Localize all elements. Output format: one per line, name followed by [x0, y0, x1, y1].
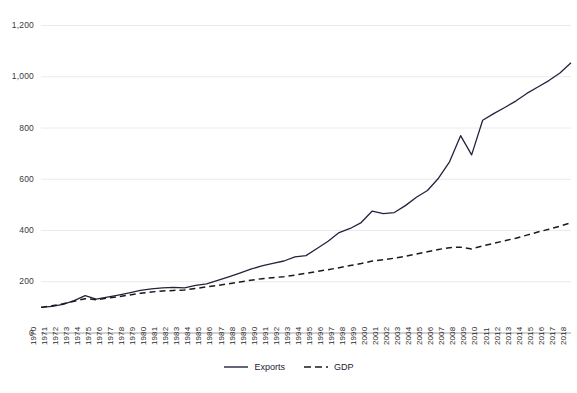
x-axis-tick-label: 2000 [360, 327, 369, 345]
x-axis-tick-label: 1973 [62, 327, 71, 345]
x-axis-tick-label: 1970 [29, 327, 38, 345]
legend-label-gdp: GDP [334, 362, 354, 372]
y-axis-tick-label: 400 [0, 225, 34, 235]
y-axis-tick-label: 200 [0, 276, 34, 286]
x-axis-tick-label: 1975 [84, 327, 93, 345]
x-axis-tick-label: 2012 [493, 327, 502, 345]
x-axis-tick-label: 1982 [161, 327, 170, 345]
x-axis-tick-label: 1976 [95, 327, 104, 345]
x-axis-tick-label: 2016 [537, 327, 546, 345]
x-axis-tick-label: 2013 [504, 327, 513, 345]
legend-swatch-dashed-icon [303, 363, 329, 371]
x-axis-tick-label: 2018 [559, 327, 568, 345]
x-axis-tick-label: 1987 [217, 327, 226, 345]
y-axis-tick-label: 1,200 [0, 20, 34, 30]
x-axis-tick-label: 2001 [371, 327, 380, 345]
x-axis-tick-label: 2017 [548, 327, 557, 345]
x-axis-tick-label: 1980 [139, 327, 148, 345]
x-axis-tick-label: 1981 [150, 327, 159, 345]
series-line-exports [41, 63, 571, 308]
y-axis-tick-label: 800 [0, 123, 34, 133]
x-axis-tick-label: 2014 [515, 327, 524, 345]
x-axis-tick-label: 1974 [73, 327, 82, 345]
x-axis-tick-label: 1990 [250, 327, 259, 345]
x-axis-tick-label: 1997 [327, 327, 336, 345]
x-axis-tick-label: 2006 [426, 327, 435, 345]
y-axis-tick-label: 1,000 [0, 71, 34, 81]
x-axis-tick-label: 1985 [194, 327, 203, 345]
x-axis-tick-label: 2009 [459, 327, 468, 345]
y-axis-tick-label: 600 [0, 174, 34, 184]
x-axis-tick-label: 2002 [382, 327, 391, 345]
x-axis-tick-label: 1983 [172, 327, 181, 345]
line-chart-figure: 02004006008001,0001,200 1970197119721973… [0, 0, 577, 393]
x-axis-tick-label: 2008 [448, 327, 457, 345]
x-axis-tick-label: 1994 [294, 327, 303, 345]
x-axis-tick-label: 1993 [283, 327, 292, 345]
x-axis-tick-label: 1977 [106, 327, 115, 345]
x-axis-tick-label: 1999 [349, 327, 358, 345]
x-axis-tick-label: 2004 [404, 327, 413, 345]
x-axis-tick-label: 1986 [205, 327, 214, 345]
x-axis-tick-label: 2011 [482, 327, 491, 345]
legend-label-exports: Exports [254, 362, 285, 372]
x-axis-tick-label: 1972 [51, 327, 60, 345]
x-axis-tick-label: 1979 [128, 327, 137, 345]
legend-item-exports: Exports [223, 362, 285, 372]
x-axis-tick-label: 1988 [228, 327, 237, 345]
x-axis-tick-label: 2005 [415, 327, 424, 345]
x-axis-tick-label: 1996 [316, 327, 325, 345]
legend-item-gdp: GDP [303, 362, 354, 372]
chart-legend: Exports GDP [0, 362, 577, 372]
x-axis-tick-label: 2007 [437, 327, 446, 345]
x-axis-tick-label: 1998 [338, 327, 347, 345]
x-axis-tick-label: 1978 [117, 327, 126, 345]
x-axis-tick-label: 2015 [526, 327, 535, 345]
x-axis-tick-label: 1971 [40, 327, 49, 345]
legend-swatch-solid-icon [223, 363, 249, 371]
x-axis-tick-label: 1989 [239, 327, 248, 345]
x-axis-tick-label: 1984 [183, 327, 192, 345]
x-axis-tick-label: 1991 [261, 327, 270, 345]
x-axis-tick-label: 2010 [470, 327, 479, 345]
x-axis-tick-label: 1995 [305, 327, 314, 345]
x-axis-tick-label: 1992 [272, 327, 281, 345]
x-axis-tick-label: 2003 [393, 327, 402, 345]
